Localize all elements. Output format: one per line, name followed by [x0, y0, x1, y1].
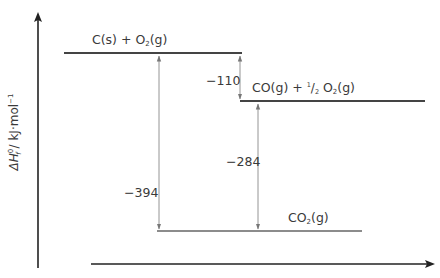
label-reactants: C(s) + O2(g) — [92, 34, 167, 48]
value-label-minus-110: −110 — [206, 75, 240, 88]
value-label-minus-284: −284 — [226, 156, 260, 169]
label-product: CO2(g) — [288, 212, 329, 226]
value-label-minus-394: −394 — [124, 187, 158, 200]
y-axis-label: ΔH0f / kJ·mol−1 — [7, 94, 23, 171]
label-intermediate: CO(g) + 1/2 O2(g) — [252, 82, 355, 96]
diagram-canvas — [0, 0, 440, 278]
